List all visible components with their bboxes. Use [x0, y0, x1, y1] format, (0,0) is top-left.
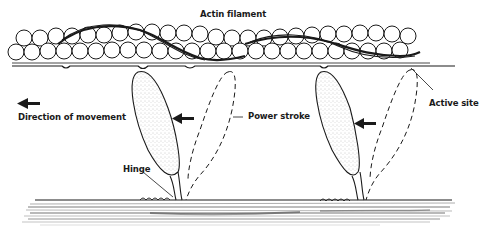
actin-bead-row-top	[16, 24, 416, 46]
actin-filament	[8, 24, 455, 69]
myosin-thick-filament	[22, 200, 455, 225]
myosin-head-pre-stroke	[366, 70, 417, 200]
myosin-head-1	[132, 71, 235, 200]
myosin-head-pre-stroke	[186, 72, 235, 200]
direction-arrow-icon	[17, 98, 40, 109]
actin-bead-row-bottom	[8, 42, 408, 60]
sliding-filament-diagram	[0, 0, 489, 248]
arrow-left-icon	[172, 113, 194, 124]
power-stroke-label: Power stroke	[248, 111, 310, 121]
myosin-head-post-stroke	[316, 71, 359, 175]
actin-filament-label: Actin filament	[200, 9, 266, 19]
actin-baseline	[12, 66, 455, 69]
myosin-neck	[352, 172, 364, 200]
leader-lines	[143, 68, 433, 197]
hinge-label: Hinge	[123, 164, 150, 174]
active-site-leader	[411, 68, 433, 90]
myosin-head-2	[316, 70, 417, 201]
active-site-label: Active site	[429, 98, 479, 108]
direction-of-movement-label: Direction of movement	[18, 112, 126, 122]
myosin-head-post-stroke	[132, 71, 179, 175]
hinge-leader	[143, 172, 173, 197]
arrow-left-icon	[354, 118, 376, 129]
